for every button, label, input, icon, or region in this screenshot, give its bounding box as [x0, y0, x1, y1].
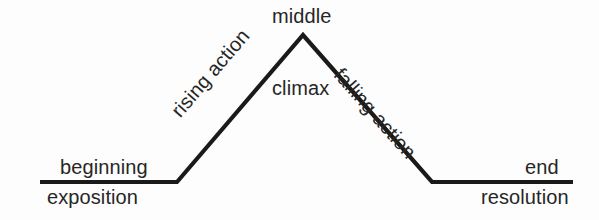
label-end: end	[525, 157, 559, 177]
label-exposition: exposition	[47, 187, 138, 207]
label-middle: middle	[272, 6, 332, 26]
plot-diagram-canvas: middle climax rising action falling acti…	[0, 0, 599, 220]
label-climax: climax	[272, 78, 329, 98]
label-beginning: beginning	[60, 157, 148, 177]
label-resolution: resolution	[481, 187, 569, 207]
